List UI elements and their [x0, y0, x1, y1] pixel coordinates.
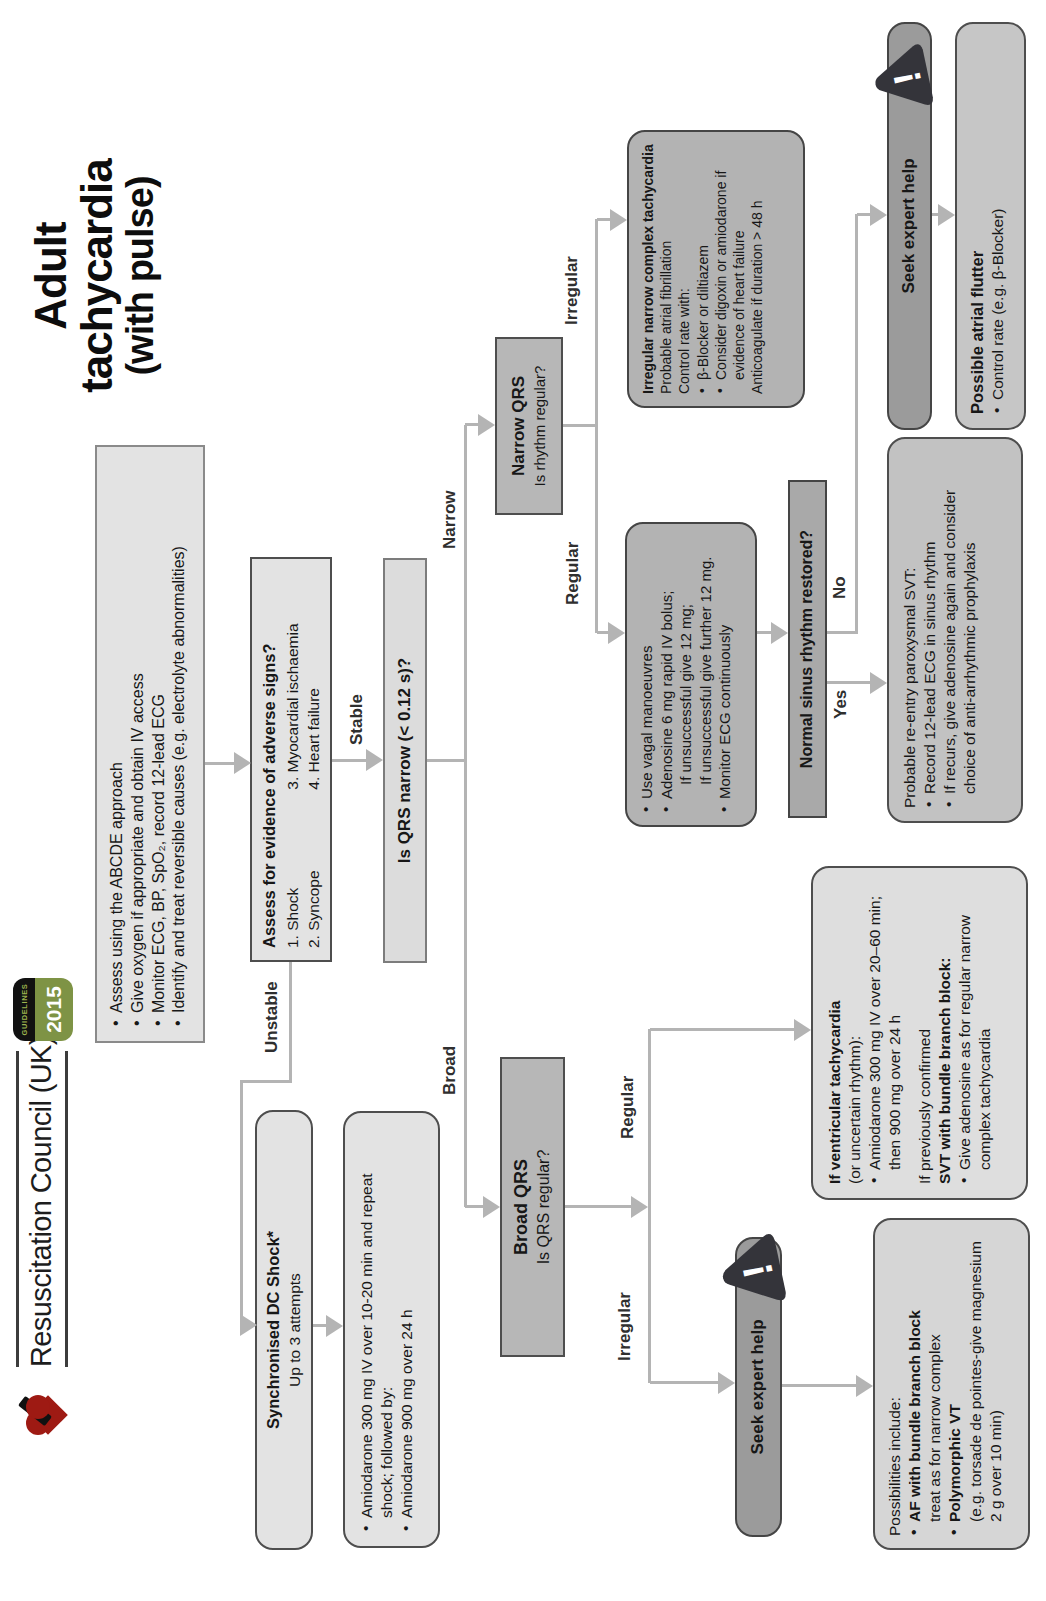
adverse-item: 4. Heart failure: [304, 571, 324, 790]
possibilities-box: Possibilities include: AF with bundle br…: [873, 1218, 1030, 1550]
connector-split: [427, 759, 466, 762]
label-no: No: [830, 576, 850, 599]
flutter-item: Control rate (e.g. β-Blocker): [988, 38, 1008, 414]
connector-unstable: [240, 1080, 292, 1083]
vt-item: Amiodarone 300 mg IV over 20–60 min; the…: [865, 882, 905, 1184]
irregular-line: Anticoagulate if duration > 48 h: [748, 144, 766, 394]
label-unstable: Unstable: [262, 981, 282, 1053]
ventricular-tachycardia-box: If ventricular tachycardia (or uncertain…: [811, 866, 1028, 1200]
adverse-signs-box: Assess for evidence of adverse signs? 1.…: [250, 557, 332, 962]
irregular-title: Irregular narrow complex tachycardia: [639, 144, 657, 394]
connector-broad-down: [565, 1205, 633, 1208]
adverse-item: 1. Shock: [283, 790, 303, 948]
vt-title: If ventricular tachycardia: [825, 882, 845, 1184]
arrowhead: [366, 749, 383, 771]
connector-seek-possibilities: [782, 1384, 856, 1387]
atrial-flutter-box: Possible atrial flutter Control rate (e.…: [955, 22, 1026, 430]
possibilities-note: treat as for narrow complex: [925, 1232, 945, 1536]
flutter-title: Possible atrial flutter: [967, 38, 988, 414]
warning-icon: !: [713, 1230, 791, 1314]
vagal-item: Use vagal manoeuvres: [637, 536, 657, 813]
connector-narrow-rail: [595, 219, 598, 633]
org-header: Resuscitation Council (UK): [16, 1051, 68, 1367]
dc-shock-title: Synchronised DC Shock*: [263, 1231, 284, 1429]
assess-item: Monitor ECG, BP, SpO₂, record 12-lead EC…: [149, 461, 170, 1027]
resuscitation-council-heart-logo: [20, 1391, 66, 1439]
connector-unstable: [240, 1081, 243, 1325]
connector-broad: [465, 1205, 485, 1208]
vagal-manoeuvres-box: Use vagal manoeuvres Adenosine 6 mg rapi…: [625, 522, 757, 827]
arrowhead: [326, 1315, 343, 1337]
assess-item: Identify and treat reversible causes (e.…: [169, 461, 190, 1027]
label-irregular-broad: Irregular: [615, 1292, 635, 1361]
broad-qrs-title: Broad QRS: [510, 1159, 533, 1255]
irregular-item: β-Blocker or diltiazem: [694, 144, 712, 394]
narrow-qrs-question: Is rhythm regular?: [530, 366, 550, 487]
arrowhead: [794, 1019, 811, 1041]
vagal-item: Monitor ECG continuously: [715, 536, 735, 813]
arrowhead: [938, 204, 955, 226]
arrowhead: [608, 622, 625, 644]
sinus-restored-question: Normal sinus rhythm restored?: [797, 530, 818, 768]
irregular-line: Probable atrial fibrillation: [657, 144, 675, 394]
guidelines-2015-badge: GUIDELINES 2015: [13, 978, 73, 1041]
arrowhead: [478, 414, 495, 436]
connector-broad-rail: [648, 1029, 651, 1383]
narrow-qrs-title: Narrow QRS: [508, 376, 530, 476]
possibilities-intro: Possibilities include:: [885, 1232, 905, 1536]
broad-qrs-question: Is QRS regular?: [534, 1150, 555, 1265]
arrowhead: [631, 1196, 648, 1218]
adverse-item: 2. Syncope: [304, 790, 324, 948]
irregular-line: Control rate with:: [675, 144, 693, 394]
connector-narrow-down: [563, 424, 597, 427]
label-yes: Yes: [831, 690, 851, 719]
possibilities-note: (e.g. torsade de pointes-give magnesium …: [966, 1232, 1006, 1536]
assess-abcde-box: Assess using the ABCDE approach Give oxy…: [95, 445, 205, 1043]
poster-title: Adult tachycardia (with pulse): [28, 106, 162, 446]
arrowhead: [771, 622, 788, 644]
sinus-restored-box: Normal sinus rhythm restored?: [788, 480, 827, 818]
irregular-narrow-complex-box: Irregular narrow complex tachycardia Pro…: [627, 130, 805, 408]
svt-item: If recurs, give adenosine again and cons…: [940, 452, 980, 808]
seek-expert-help-label: Seek expert help: [747, 1319, 769, 1454]
broad-qrs-box: Broad QRS Is QRS regular?: [500, 1057, 565, 1357]
arrowhead: [718, 1372, 735, 1394]
connector-stable: [332, 759, 368, 762]
seek-expert-help-label: Seek expert help: [898, 158, 920, 293]
title-line1: Adult tachycardia: [28, 106, 120, 446]
label-irregular-narrow: Irregular: [562, 256, 582, 325]
arrowhead: [610, 209, 627, 231]
arrowhead: [483, 1196, 500, 1218]
rotated-landscape-sheet: Resuscitation Council (UK) GUIDELINES 20…: [0, 0, 1046, 1601]
assess-item: Give oxygen if appropriate and obtain IV…: [128, 461, 149, 1027]
connector-assess-adverse: [205, 762, 236, 765]
amiodarone-item: Amiodarone 900 mg over 24 h: [397, 1127, 417, 1532]
vt-item: Give adenosine as for regular narrow com…: [955, 882, 995, 1184]
narrow-qrs-box: Narrow QRS Is rhythm regular?: [495, 337, 563, 515]
arrowhead: [870, 672, 887, 694]
adverse-title: Assess for evidence of adverse signs?: [259, 571, 280, 948]
possibilities-item: AF with bundle branch block: [905, 1232, 925, 1536]
amiodarone-box: Amiodarone 300 mg IV over 10-20 min and …: [343, 1111, 440, 1548]
irregular-item: Consider digoxin or amiodarone if eviden…: [712, 144, 748, 394]
connector-broad-irregular: [650, 1381, 718, 1384]
svt-title: Probable re-entry paroxysmal SVT:: [900, 452, 920, 808]
connector-yes: [827, 681, 872, 684]
connector-unstable: [289, 962, 292, 1082]
amiodarone-item: Amiodarone 300 mg IV over 10-20 min and …: [357, 1127, 397, 1532]
vt-subtitle: (or uncertain rhythm):: [845, 882, 865, 1184]
connector-broad-regular: [650, 1028, 795, 1031]
dc-shock-box: Synchronised DC Shock* Up to 3 attempts: [255, 1110, 313, 1550]
vt-alt-intro: If previously confirmed: [915, 882, 935, 1184]
connector-no: [855, 214, 858, 634]
dc-shock-subtitle: Up to 3 attempts: [285, 1273, 305, 1387]
badge-year: 2015: [35, 978, 73, 1041]
vagal-subitem: If unsuccessful give 12 mg;: [676, 536, 696, 813]
connector-split-rail: [464, 425, 467, 1207]
org-rule-bottom: [65, 1051, 68, 1367]
vt-alt-title: SVT with bundle branch block:: [935, 882, 955, 1184]
connector-narrow-irregular: [597, 218, 611, 221]
vagal-item: Adenosine 6 mg rapid IV bolus;: [657, 536, 677, 813]
arrowhead: [870, 204, 887, 226]
adverse-item: 3. Myocardial ischaemia: [283, 571, 303, 790]
